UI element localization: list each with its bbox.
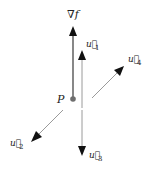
gradient-vector: ∇f [67,8,81,99]
diagram-canvas: ∇f u⃗ 1 u⃗ 3 u⃗ 4 u⃗ 2 P [0,0,151,171]
vector-u3: u⃗ 3 [78,110,102,163]
point-label: P [56,93,65,106]
u3-arrowhead-icon [78,146,86,156]
u4-subscript: 4 [137,59,142,67]
point-dot-icon [70,96,76,102]
gradient-arrowhead-icon [69,26,77,36]
gradient-label: ∇f [67,8,81,21]
vector-u2: u⃗ 2 [10,110,63,151]
u4-arrow-line [92,71,119,98]
vector-u4: u⃗ 4 [92,54,142,98]
vector-u1: u⃗ 1 [78,39,99,108]
u2-arrow-line [37,110,63,136]
u2-subscript: 2 [19,143,23,151]
u1-arrowhead-icon [78,50,86,60]
u3-subscript: 3 [98,155,102,163]
u1-subscript: 1 [95,44,99,52]
